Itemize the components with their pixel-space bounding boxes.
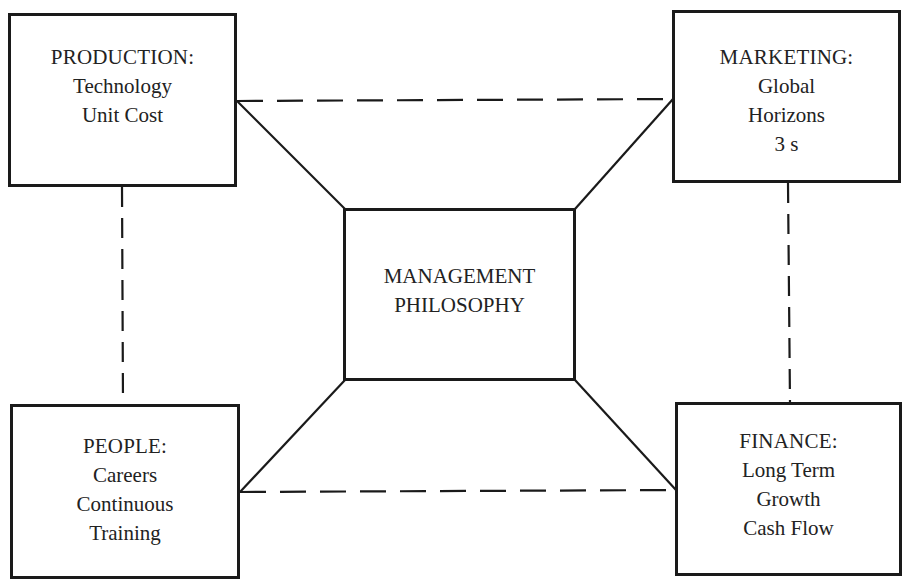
marketing-item: Global [758,72,815,101]
finance-box: FINANCE: Long Term Growth Cash Flow [675,402,902,576]
solid-connector-production-management [237,101,345,209]
dashed-connector-production-marketing [237,99,673,101]
dashed-connector-production-people [122,187,123,405]
marketing-box: MARKETING: Global Horizons 3 s [672,10,901,183]
management-philosophy-box: MANAGEMENT PHILOSOPHY [343,208,576,381]
management-philosophy-diagram: PRODUCTION: Technology Unit Cost MARKETI… [0,0,912,587]
people-item: Training [89,519,161,548]
finance-item: Long Term [742,456,835,485]
marketing-item: Horizons [748,101,825,130]
people-box: PEOPLE: Careers Continuous Training [10,404,240,579]
production-item: Technology [73,72,172,101]
production-item: Unit Cost [82,101,163,130]
solid-connector-people-management [240,380,345,492]
management-label-line: PHILOSOPHY [394,291,525,320]
finance-item: Cash Flow [743,514,833,543]
dashed-connector-marketing-finance [788,183,790,403]
finance-title: FINANCE: [739,427,837,456]
marketing-item: 3 s [775,130,799,159]
people-item: Careers [93,461,157,490]
management-label-line: MANAGEMENT [384,262,536,291]
people-title: PEOPLE: [83,432,167,461]
production-title: PRODUCTION: [51,43,194,72]
dashed-connector-people-finance [240,490,676,492]
people-item: Continuous [77,490,174,519]
marketing-title: MARKETING: [720,43,854,72]
solid-connector-finance-management [575,380,676,490]
solid-connector-marketing-management [575,99,673,209]
finance-item: Growth [756,485,820,514]
production-box: PRODUCTION: Technology Unit Cost [8,13,237,187]
